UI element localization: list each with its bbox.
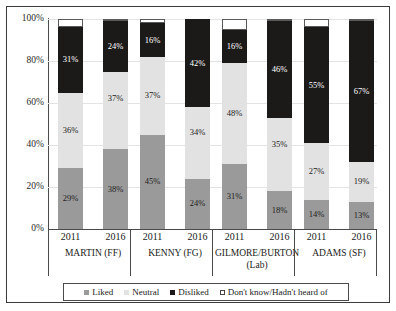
bar-stack: 38%37%24%: [103, 19, 128, 229]
bar-segment-value-label: 29%: [63, 194, 79, 203]
bar-segment-disliked[interactable]: 42%: [185, 19, 210, 107]
plot-area: 0%20%40%60%80%100% 29%36%31%38%37%24%45%…: [48, 18, 377, 230]
bar-segment-value-label: 16%: [145, 36, 161, 45]
legend-swatch-icon: [124, 290, 129, 295]
bar-segment-value-label: 14%: [309, 210, 325, 219]
chart-legend: LikedNeutralDislikedDon't know/Hadn't he…: [63, 283, 349, 301]
x-axis-group-label: ADAMS (SF): [312, 248, 366, 260]
bar-segment-dontknow[interactable]: [103, 19, 128, 21]
x-axis-labels: 20112016201120162011201620112016MARTIN (…: [48, 231, 377, 277]
x-axis-year-label: 2016: [352, 232, 372, 242]
x-axis-year-label: 2011: [143, 232, 163, 242]
y-axis-tick-label: 60%: [27, 98, 44, 108]
legend-item[interactable]: Neutral: [124, 288, 159, 297]
bar-segment-value-label: 37%: [108, 94, 124, 103]
y-axis-tick-label: 0%: [31, 224, 44, 234]
stacked-bar[interactable]: 13%19%67%: [349, 19, 374, 229]
bar-segment-value-label: 45%: [145, 177, 161, 186]
bar-stack: 31%48%16%: [222, 19, 247, 229]
bar-segment-value-label: 46%: [272, 65, 288, 74]
x-axis-year-label: 2011: [307, 232, 327, 242]
legend-item[interactable]: Liked: [84, 288, 113, 297]
bar-segment-value-label: 67%: [354, 87, 370, 96]
stacked-bar[interactable]: 29%36%31%: [58, 19, 83, 229]
bar-segment-liked[interactable]: 13%: [349, 202, 374, 229]
chart-container: 0%20%40%60%80%100% 29%36%31%38%37%24%45%…: [6, 6, 390, 303]
bar-segment-liked[interactable]: 14%: [304, 200, 329, 229]
x-axis-group-separator: [376, 230, 377, 276]
bar-segment-dontknow[interactable]: [267, 19, 292, 21]
bar-segment-value-label: 24%: [108, 42, 124, 51]
bar-segment-value-label: 18%: [272, 206, 288, 215]
bar-stack: 45%37%16%: [140, 19, 165, 229]
bar-segment-neutral[interactable]: 34%: [185, 107, 210, 178]
bar-segment-disliked[interactable]: 55%: [304, 27, 329, 143]
bar-segment-liked[interactable]: 45%: [140, 135, 165, 230]
stacked-bar[interactable]: 45%37%16%: [140, 19, 165, 229]
bar-segment-disliked[interactable]: 24%: [103, 21, 128, 71]
stacked-bar[interactable]: 38%37%24%: [103, 19, 128, 229]
bar-segment-disliked[interactable]: 16%: [140, 23, 165, 57]
legend-item[interactable]: Don't know/Hadn't heard of: [220, 288, 328, 297]
bar-segment-dontknow[interactable]: [349, 19, 374, 21]
x-axis-group-label: GILMORE/BURTON(Lab): [215, 248, 299, 272]
bar-segment-disliked[interactable]: 31%: [58, 27, 83, 92]
legend-label: Liked: [92, 288, 113, 297]
x-axis-group-label: KENNY (FG): [148, 248, 202, 260]
bar-segment-value-label: 27%: [309, 167, 325, 176]
legend-swatch-icon: [84, 290, 89, 295]
x-axis-group-separator: [212, 230, 213, 276]
bar-segment-liked[interactable]: 24%: [185, 179, 210, 229]
bar-segment-neutral[interactable]: 37%: [103, 72, 128, 150]
bar-segment-neutral[interactable]: 36%: [58, 93, 83, 169]
bar-segment-neutral[interactable]: 35%: [267, 118, 292, 192]
bar-segment-dontknow[interactable]: [140, 19, 165, 23]
y-axis-tick-label: 20%: [27, 182, 44, 192]
bar-segment-value-label: 55%: [309, 81, 325, 90]
bar-segment-neutral[interactable]: 37%: [140, 57, 165, 135]
bar-segment-value-label: 35%: [272, 140, 288, 149]
legend-item[interactable]: Disliked: [170, 288, 209, 297]
bar-stack: 18%35%46%: [267, 19, 292, 229]
legend-label: Disliked: [178, 288, 209, 297]
y-axis-tick-label: 80%: [27, 56, 44, 66]
bar-segment-value-label: 37%: [145, 91, 161, 100]
bar-segment-neutral[interactable]: 27%: [304, 143, 329, 200]
bar-segment-dontknow[interactable]: [58, 19, 83, 27]
x-axis-year-label: 2011: [61, 232, 81, 242]
legend-label: Neutral: [132, 288, 159, 297]
y-axis-tick-label: 40%: [27, 140, 44, 150]
stacked-bar[interactable]: 14%27%55%: [304, 19, 329, 229]
bar-segment-disliked[interactable]: 46%: [267, 21, 292, 118]
bar-segment-value-label: 38%: [108, 185, 124, 194]
stacked-bar[interactable]: 31%48%16%: [222, 19, 247, 229]
bar-segment-dontknow[interactable]: [222, 19, 247, 30]
bar-segment-dontknow[interactable]: [304, 19, 329, 27]
bar-segment-neutral[interactable]: 48%: [222, 63, 247, 164]
x-axis-year-label: 2016: [270, 232, 290, 242]
stacked-bar[interactable]: 24%34%42%: [185, 19, 210, 229]
y-axis-line: [48, 18, 49, 230]
bar-segment-disliked[interactable]: 67%: [349, 21, 374, 162]
bar-segment-value-label: 42%: [190, 59, 206, 68]
bar-segment-value-label: 16%: [227, 42, 243, 51]
bar-segment-liked[interactable]: 38%: [103, 149, 128, 229]
x-axis-year-label: 2011: [225, 232, 245, 242]
bar-segment-disliked[interactable]: 16%: [222, 30, 247, 64]
bar-segment-value-label: 19%: [354, 177, 370, 186]
bar-segment-liked[interactable]: 18%: [267, 191, 292, 229]
bar-segment-value-label: 36%: [63, 126, 79, 135]
bar-stack: 24%34%42%: [185, 19, 210, 229]
bar-segment-value-label: 13%: [354, 211, 370, 220]
bar-stack: 29%36%31%: [58, 19, 83, 229]
bar-segment-liked[interactable]: 29%: [58, 168, 83, 229]
x-axis-group-label-line1: GILMORE/BURTON: [215, 248, 299, 260]
legend-label: Don't know/Hadn't heard of: [228, 288, 328, 297]
x-axis-year-label: 2016: [188, 232, 208, 242]
x-axis-group-separator: [294, 230, 295, 276]
x-axis-group-label-line2: (Lab): [215, 260, 299, 272]
bar-segment-neutral[interactable]: 19%: [349, 162, 374, 202]
stacked-bar[interactable]: 18%35%46%: [267, 19, 292, 229]
bar-segment-liked[interactable]: 31%: [222, 164, 247, 229]
x-axis-year-label: 2016: [106, 232, 126, 242]
